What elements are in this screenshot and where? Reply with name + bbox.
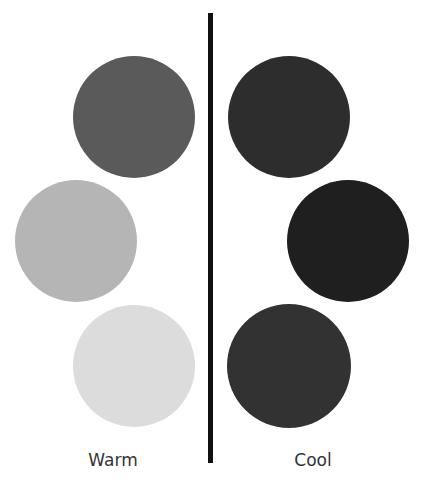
- cool-label: Cool: [273, 448, 353, 472]
- cool-circle-3: [227, 304, 351, 428]
- vertical-divider: [208, 13, 213, 463]
- warm-circle-2: [15, 180, 137, 302]
- warm-circle-3: [73, 305, 195, 427]
- cool-circle-2: [287, 180, 409, 302]
- warm-label: Warm: [73, 448, 153, 472]
- warm-circle-1: [73, 56, 195, 178]
- cool-circle-1: [228, 56, 350, 178]
